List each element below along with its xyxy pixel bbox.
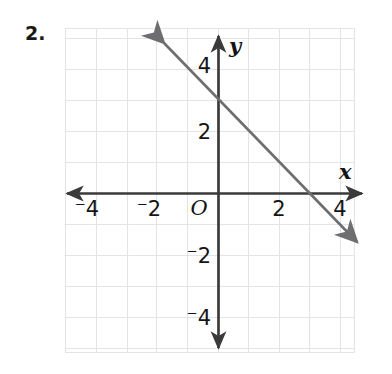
y-tick-label-pos2: 2 bbox=[198, 120, 211, 144]
y-tick-label-pos4: 4 bbox=[198, 54, 211, 78]
y-tick-label-neg2: ⁻2 bbox=[187, 244, 211, 268]
y-axis-letter-label: y bbox=[228, 33, 243, 58]
origin-label: O bbox=[190, 196, 207, 220]
x-tick-label-pos4: 4 bbox=[333, 197, 346, 221]
x-tick-label-pos2: 2 bbox=[272, 197, 285, 221]
x-axis-letter-label: x bbox=[338, 159, 352, 184]
graph-figure: 2. bbox=[0, 0, 392, 374]
x-tick-label-neg2: ⁻2 bbox=[137, 197, 161, 221]
x-tick-label-neg4: ⁻4 bbox=[75, 197, 99, 221]
y-tick-label-neg4: ⁻4 bbox=[187, 306, 211, 330]
coordinate-plane-svg: y x ⁻4 ⁻2 2 4 O 4 2 ⁻2 ⁻4 bbox=[0, 0, 392, 374]
